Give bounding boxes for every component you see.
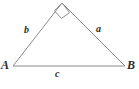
side-label-b: b — [24, 25, 29, 35]
side-label-a: a — [96, 24, 101, 34]
vertex-label-a: A — [1, 59, 9, 71]
right-triangle-figure: A B b a c — [0, 0, 139, 89]
right-angle-square-marker — [55, 3, 70, 19]
side-label-c: c — [55, 69, 59, 79]
triangle-drawing — [0, 0, 139, 89]
vertex-label-b: B — [127, 59, 135, 71]
